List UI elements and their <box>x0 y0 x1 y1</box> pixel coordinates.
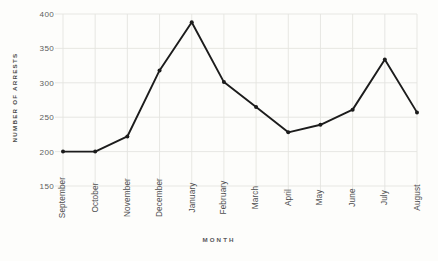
data-point <box>318 123 322 127</box>
data-point <box>286 130 290 134</box>
data-point <box>415 110 419 114</box>
data-point <box>125 134 129 138</box>
x-axis-tick-label-text: August <box>412 184 421 210</box>
data-point <box>93 150 97 154</box>
data-point <box>190 20 194 24</box>
data-line <box>63 22 417 151</box>
data-point <box>351 108 355 112</box>
x-axis-tick-labels: SeptemberOctoberNovemberDecemberJanuaryF… <box>0 193 438 261</box>
data-point-markers <box>61 20 419 153</box>
data-point <box>222 80 226 84</box>
data-point <box>158 68 162 72</box>
gridlines <box>55 14 417 193</box>
data-point <box>254 105 258 109</box>
arrests-by-month-line-chart: NUMBER OF ARRESTS 150200250300350400 Sep… <box>0 0 438 261</box>
data-point <box>383 57 387 61</box>
x-axis-title: MONTH <box>0 236 438 243</box>
data-point <box>61 150 65 154</box>
x-axis-tick-label: August <box>386 193 438 255</box>
